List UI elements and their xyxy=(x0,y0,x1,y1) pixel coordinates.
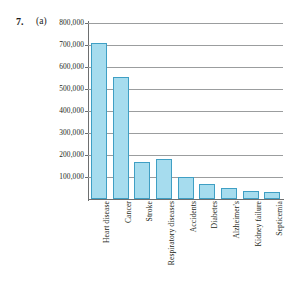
y-axis-tick-label: 500,000 xyxy=(59,84,84,93)
y-axis-tick-label: 200,000 xyxy=(59,150,84,159)
x-axis-category-label: Cancer xyxy=(124,201,133,223)
figure-bar-chart: 7. (a) 800,000700,000600,000500,000400,0… xyxy=(0,0,305,291)
y-axis-tick-label: 400,000 xyxy=(59,106,84,115)
bar xyxy=(264,192,280,199)
x-axis-category-label: Heart disease xyxy=(102,201,111,243)
y-axis-tick-label: 600,000 xyxy=(59,62,84,71)
bar xyxy=(221,188,237,199)
bar xyxy=(134,162,150,199)
x-axis-category-label: Diabetes xyxy=(210,201,219,228)
x-axis-category-label: Stroke xyxy=(145,201,154,221)
y-axis-tick-label: 700,000 xyxy=(59,40,84,49)
y-axis-tick-label: 100,000 xyxy=(59,172,84,181)
bar xyxy=(156,159,172,199)
x-axis-line xyxy=(88,199,284,200)
x-axis-category-label: Accidents xyxy=(189,201,198,232)
x-axis-category-label: Kidney failure xyxy=(254,201,263,246)
bar xyxy=(199,184,215,199)
x-axis-category-label: Respiratory diseases xyxy=(167,201,176,265)
bar xyxy=(113,77,129,199)
bar xyxy=(243,191,259,199)
y-axis-tick-labels: 800,000700,000600,000500,000400,000300,0… xyxy=(0,23,84,199)
x-axis-category-label: Septicemia xyxy=(275,201,284,236)
y-axis-tick-label: 800,000 xyxy=(59,18,84,27)
x-axis-category-labels: Heart diseaseCancerStrokeRespiratory dis… xyxy=(88,201,288,289)
bar xyxy=(178,177,194,199)
y-axis-tick-label: 300,000 xyxy=(59,128,84,137)
bar-series xyxy=(88,23,283,199)
bar xyxy=(91,43,107,199)
x-axis-category-label: Alzheimer's xyxy=(232,201,241,238)
